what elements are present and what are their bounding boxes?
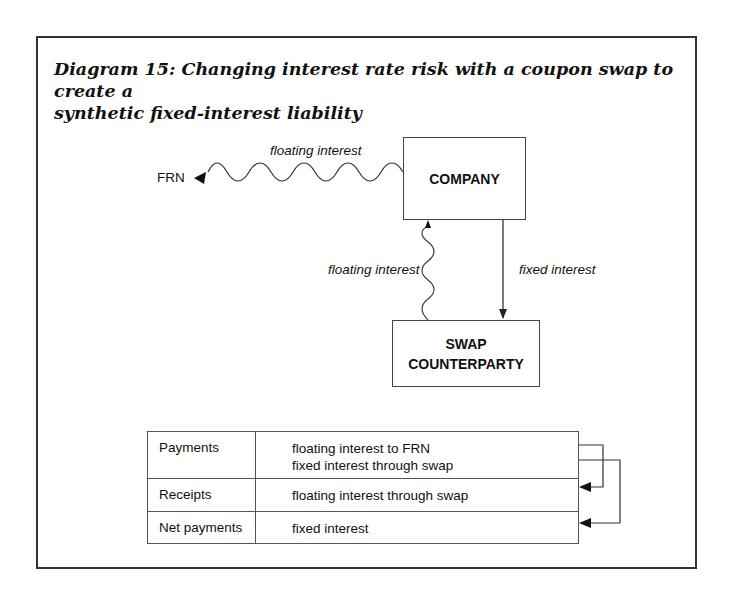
row-label: Net payments	[148, 512, 256, 544]
row-value: fixed interest through swap	[292, 457, 578, 474]
arrowhead-frn-icon	[194, 172, 206, 184]
node-swap-counterparty: SWAP COUNTERPARTY	[392, 320, 540, 387]
node-swap-label-1: SWAP	[445, 334, 486, 354]
arrowhead-net-payments-icon	[579, 518, 591, 528]
wavy-arrow-swap-to-company	[422, 226, 434, 320]
arrowhead-company-icon	[425, 220, 431, 228]
row-value: floating interest to FRN	[292, 440, 578, 457]
row-value: floating interest through swap	[292, 487, 578, 504]
wavy-arrow-company-to-frn	[208, 163, 403, 181]
row-label: Payments	[148, 432, 256, 479]
node-company: COMPANY	[403, 137, 526, 220]
row-label: Receipts	[148, 479, 256, 512]
node-swap-label-2: COUNTERPARTY	[408, 354, 524, 374]
node-company-label: COMPANY	[429, 169, 500, 189]
edge-label-company-to-swap: fixed interest	[519, 262, 596, 277]
row-values: floating interest to FRN fixed interest …	[256, 432, 579, 479]
edge-label-company-to-frn: floating interest	[270, 143, 362, 158]
cashflow-summary-table: Payments floating interest to FRN fixed …	[147, 431, 579, 544]
arrowhead-receipts-icon	[579, 482, 591, 492]
node-frn: FRN	[157, 170, 185, 185]
table-row-payments: Payments floating interest to FRN fixed …	[148, 432, 579, 479]
row-value: fixed interest	[292, 520, 578, 537]
table-row-receipts: Receipts floating interest through swap	[148, 479, 579, 512]
connector-payments-to-receipts	[579, 445, 603, 487]
edge-label-swap-to-company: floating interest	[328, 262, 420, 277]
table-row-net-payments: Net payments fixed interest	[148, 512, 579, 544]
row-values: floating interest through swap	[256, 479, 579, 512]
connector-payments-to-net	[579, 460, 620, 523]
row-values: fixed interest	[256, 512, 579, 544]
